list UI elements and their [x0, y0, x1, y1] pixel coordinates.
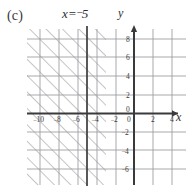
svg-text:0: 0: [127, 115, 131, 124]
svg-text:2: 2: [114, 115, 118, 124]
svg-text:0: 0: [126, 105, 130, 114]
svg-text:10: 10: [37, 115, 45, 124]
svg-text:4: 4: [126, 72, 130, 81]
svg-text:2: 2: [126, 91, 130, 100]
shaded-solution-region: [27, 29, 106, 185]
svg-text:4: 4: [95, 115, 99, 124]
svg-text:4: 4: [170, 115, 174, 124]
y-tick-labels: 8 6 4 2 0 – 2 – 4 – 6: [121, 35, 130, 175]
svg-text:6: 6: [126, 53, 130, 62]
coordinate-plane: – 10 – 8 – 6 – 4 – 2 0 2 4 8 6 4 2 0 – 2…: [0, 0, 191, 189]
graph-figure: (c) x=–5 y x: [0, 0, 191, 189]
svg-text:2: 2: [125, 128, 129, 137]
svg-text:6: 6: [76, 115, 80, 124]
svg-text:8: 8: [126, 35, 130, 44]
svg-text:4: 4: [125, 147, 129, 156]
svg-text:8: 8: [57, 115, 61, 124]
svg-text:2: 2: [151, 115, 155, 124]
svg-text:6: 6: [125, 165, 129, 174]
